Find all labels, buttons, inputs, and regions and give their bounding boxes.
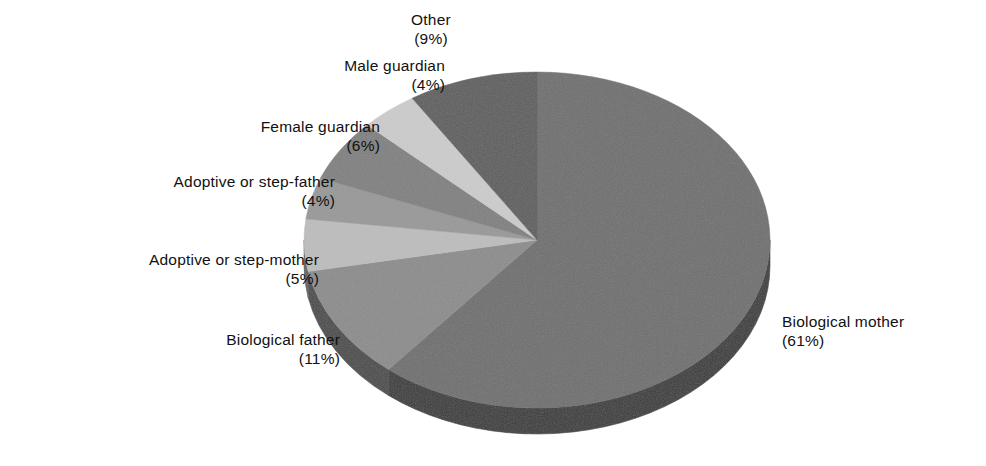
pie-chart-graphic bbox=[0, 0, 986, 466]
slice-label-adoptive-step-mother: Adoptive or step-mother (5%) bbox=[44, 250, 319, 288]
slice-label-other-pct: (9%) bbox=[386, 29, 476, 48]
slice-label-male-guardian: Male guardian (4%) bbox=[245, 56, 445, 94]
slice-label-adoptive-step-father: Adoptive or step-father (4%) bbox=[60, 172, 335, 210]
slice-label-biological-father-name: Biological father bbox=[226, 331, 340, 348]
slice-label-female-guardian-pct: (6%) bbox=[170, 136, 380, 155]
slice-label-other-name: Other bbox=[411, 11, 451, 28]
slice-label-male-guardian-pct: (4%) bbox=[245, 75, 445, 94]
slice-label-biological-mother-pct: (61%) bbox=[782, 331, 982, 350]
slice-label-adoptive-step-mother-pct: (5%) bbox=[44, 269, 319, 288]
slice-label-adoptive-step-father-name: Adoptive or step-father bbox=[174, 173, 335, 190]
slice-label-biological-mother: Biological mother (61%) bbox=[782, 312, 982, 350]
slice-label-other: Other (9%) bbox=[386, 10, 476, 48]
slice-label-male-guardian-name: Male guardian bbox=[344, 57, 445, 74]
slice-label-adoptive-step-father-pct: (4%) bbox=[60, 191, 335, 210]
slice-label-biological-mother-name: Biological mother bbox=[782, 313, 904, 330]
slice-label-biological-father-pct: (11%) bbox=[120, 349, 340, 368]
slice-label-adoptive-step-mother-name: Adoptive or step-mother bbox=[149, 251, 319, 268]
slice-label-biological-father: Biological father (11%) bbox=[120, 330, 340, 368]
slice-label-female-guardian-name: Female guardian bbox=[261, 118, 380, 135]
pie-chart: Other (9%) Male guardian (4%) Female gua… bbox=[0, 0, 986, 466]
slice-label-female-guardian: Female guardian (6%) bbox=[170, 117, 380, 155]
